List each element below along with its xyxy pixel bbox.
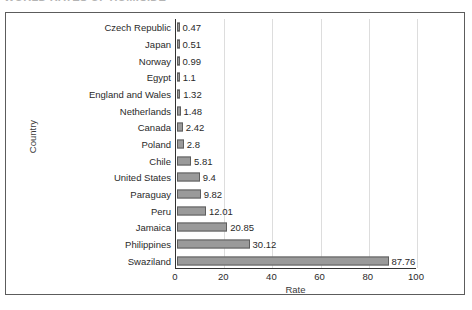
bar-row: Egypt1.1 (176, 69, 472, 85)
bar (177, 190, 201, 199)
bar-category-label: Czech Republic (104, 22, 171, 33)
bar (177, 140, 184, 149)
bar (177, 256, 389, 265)
bar-row: Czech Republic0.47 (176, 19, 472, 35)
bar (177, 156, 191, 165)
bar-category-label: Netherlands (120, 105, 171, 116)
x-tick-label: 60 (314, 271, 325, 282)
x-tick-label: 0 (172, 271, 177, 282)
bar-category-label: Poland (141, 139, 171, 150)
bar-category-label: Swaziland (128, 255, 171, 266)
bar-value-label: 12.01 (209, 205, 233, 216)
bar-row: Norway0.99 (176, 53, 472, 69)
clipped-figure-heading: WORLD RATES OF HOMICIDE (4, 0, 244, 3)
bar (177, 106, 181, 115)
bar-value-label: 1.32 (183, 89, 202, 100)
bar-value-label: 0.99 (183, 55, 202, 66)
x-tick-label: 40 (266, 271, 277, 282)
bar (177, 240, 250, 249)
bar-row: Chile5.81 (176, 153, 472, 169)
bar-value-label: 87.76 (392, 255, 416, 266)
bar-row: Paraguay9.82 (176, 186, 472, 202)
bar (177, 173, 200, 182)
bar-category-label: Canada (138, 122, 171, 133)
x-tick-label: 100 (408, 271, 424, 282)
bar-category-label: Egypt (147, 72, 171, 83)
bar-category-label: Chile (149, 155, 171, 166)
bar-value-label: 2.8 (187, 139, 200, 150)
x-axis-ticks: 020406080100 (175, 271, 416, 285)
bar-value-label: 0.51 (183, 39, 202, 50)
bar-category-label: England and Wales (89, 89, 171, 100)
bar-series: Czech Republic0.47Japan0.51Norway0.99Egy… (176, 19, 416, 268)
bar-row: Philippines30.12 (176, 236, 472, 252)
bar-category-label: United States (114, 172, 171, 183)
bar (177, 206, 206, 215)
bar-category-label: Paraguay (130, 189, 171, 200)
bar-value-label: 5.81 (194, 155, 213, 166)
bar (177, 123, 183, 132)
bar-row: Poland2.8 (176, 136, 472, 152)
bar-value-label: 2.42 (186, 122, 205, 133)
bar-row: Japan0.51 (176, 36, 472, 52)
bar-value-label: 20.85 (230, 222, 254, 233)
bar-value-label: 1.1 (183, 72, 196, 83)
bar-value-label: 9.4 (203, 172, 216, 183)
bar-value-label: 0.47 (183, 22, 202, 33)
x-tick-label: 20 (218, 271, 229, 282)
x-tick-label: 80 (363, 271, 374, 282)
bar (177, 40, 180, 49)
bar-category-label: Japan (145, 39, 171, 50)
y-axis-title: Country (27, 107, 38, 167)
bar-category-label: Norway (139, 55, 171, 66)
bar (177, 56, 180, 65)
bar (177, 23, 180, 32)
bar-value-label: 9.82 (204, 189, 223, 200)
bar-row: United States9.4 (176, 169, 472, 185)
bar (177, 223, 227, 232)
bar (177, 73, 180, 82)
bar-row: Netherlands1.48 (176, 103, 472, 119)
bar (177, 90, 180, 99)
bar-row: England and Wales1.32 (176, 86, 472, 102)
bar-category-label: Jamaica (136, 222, 171, 233)
bar-category-label: Peru (151, 205, 171, 216)
x-axis-title: Rate (175, 284, 416, 295)
bar-category-label: Philippines (125, 239, 171, 250)
bar-value-label: 1.48 (184, 105, 203, 116)
bar-value-label: 30.12 (253, 239, 277, 250)
bar-row: Peru12.01 (176, 203, 472, 219)
bar-row: Canada2.42 (176, 119, 472, 135)
bar-row: Swaziland87.76 (176, 253, 472, 269)
plot-area: Czech Republic0.47Japan0.51Norway0.99Egy… (175, 19, 416, 269)
bar-row: Jamaica20.85 (176, 219, 472, 235)
figure-frame: Country Czech Republic0.47Japan0.51Norwa… (5, 12, 465, 295)
